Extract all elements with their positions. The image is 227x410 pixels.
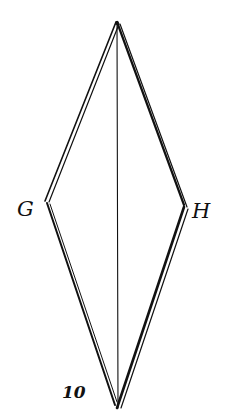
edge-top-left bbox=[45, 22, 116, 201]
vertex-label-h: H bbox=[192, 201, 210, 222]
kite-outline bbox=[45, 21, 188, 408]
edge-bottom-left bbox=[47, 203, 115, 405]
page-number: 10 bbox=[62, 384, 86, 401]
edge-bottom-left-inner bbox=[50, 204, 117, 402]
center-line bbox=[117, 22, 118, 408]
apex-point bbox=[115, 21, 119, 25]
edge-top-left-inner bbox=[49, 24, 119, 202]
vertex-label-g: G bbox=[17, 199, 34, 220]
edge-bottom-right bbox=[117, 207, 184, 408]
edge-bottom-right-inner bbox=[121, 209, 188, 408]
edge-top-right-inner bbox=[120, 24, 187, 207]
edge-top-right bbox=[117, 22, 184, 205]
